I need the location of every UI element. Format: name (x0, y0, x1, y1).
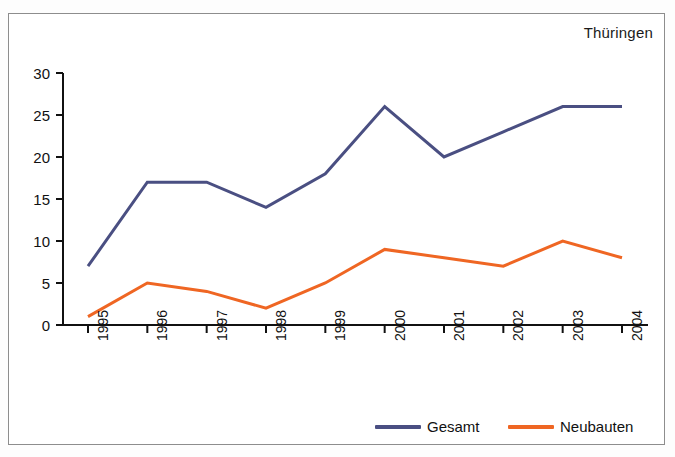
chart-legend: GesamtNeubauten (0, 410, 675, 444)
legend-item-gesamt[interactable]: Gesamt (375, 418, 480, 435)
y-tick-label: 10 (14, 233, 50, 250)
legend-swatch-icon (375, 425, 421, 429)
x-tick-label: 2000 (392, 310, 408, 341)
chart-figure: Thüringen 051015202530 19951996199719981… (0, 0, 675, 457)
y-tick-label: 15 (14, 191, 50, 208)
series-line-gesamt (88, 107, 622, 267)
y-tick-label: 30 (14, 65, 50, 82)
x-tick-label: 2002 (510, 310, 526, 341)
x-tick-label: 1999 (332, 310, 348, 341)
x-tick-label: 1995 (95, 310, 111, 341)
x-tick-label: 1998 (273, 310, 289, 341)
x-tick-label: 2004 (629, 310, 645, 341)
chart-series-layer (88, 107, 622, 317)
legend-swatch-icon (508, 425, 554, 429)
y-tick-label: 0 (14, 317, 50, 334)
legend-label: Gesamt (427, 418, 480, 435)
y-tick-label: 5 (14, 275, 50, 292)
y-tick-label: 25 (14, 107, 50, 124)
chart-axes (56, 73, 648, 333)
series-line-neubauten (88, 241, 622, 317)
y-tick-label: 20 (14, 149, 50, 166)
x-tick-label: 1996 (154, 310, 170, 341)
line-chart-plot (0, 0, 675, 457)
x-tick-label: 2003 (570, 310, 586, 341)
x-tick-label: 2001 (451, 310, 467, 341)
legend-label: Neubauten (560, 418, 633, 435)
x-tick-label: 1997 (214, 310, 230, 341)
legend-item-neubauten[interactable]: Neubauten (508, 418, 633, 435)
